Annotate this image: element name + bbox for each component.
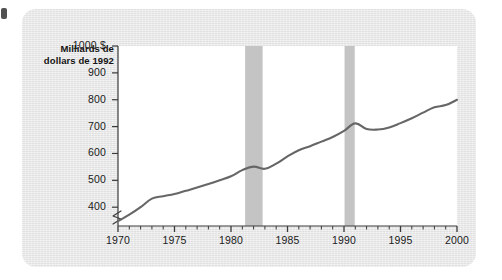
recession-band-1 (245, 46, 263, 226)
axis-group (113, 46, 457, 226)
x-tick-label: 1975 (152, 234, 198, 246)
shaded-bands-group (245, 46, 355, 226)
y-tick-label: 600 (48, 146, 106, 158)
y-tick-label: 500 (48, 173, 106, 185)
x-tick-label: 1980 (208, 234, 254, 246)
y-axis-break-icon (113, 211, 121, 224)
recession-band-2 (345, 46, 355, 226)
y-tick-label: 700 (48, 120, 106, 132)
y-tick-label: 1000 $ (48, 39, 106, 51)
y-tick-label: 800 (48, 93, 106, 105)
x-tick-label: 1990 (321, 234, 367, 246)
x-tick-label: 2000 (434, 234, 480, 246)
y-tick-label: 900 (48, 66, 106, 78)
x-ticks-group (118, 226, 457, 232)
figure-root: Milliards de dollars de 1992 1000 $90080… (0, 0, 502, 280)
x-tick-label: 1995 (378, 234, 424, 246)
x-tick-label: 1985 (265, 234, 311, 246)
data-line-series-1 (118, 100, 457, 221)
x-tick-label: 1970 (95, 234, 141, 246)
y-tick-label: 400 (48, 200, 106, 212)
y-ticks-group (112, 46, 118, 207)
